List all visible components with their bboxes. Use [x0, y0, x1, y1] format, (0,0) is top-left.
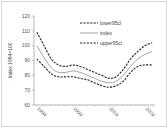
x-tick-label: 2004 [108, 105, 120, 117]
y-tick-label: 90 [24, 57, 30, 63]
y-tick-label: 100 [22, 42, 31, 48]
y-tick-label: 110 [22, 28, 30, 34]
legend-label-upper95cl: upper95cl [100, 40, 122, 46]
y-tick-label: 120 [22, 13, 31, 19]
y-tick-label: 70 [24, 87, 30, 93]
y-axis-label: Index 1994=100 [7, 42, 13, 78]
series-upper95cl [37, 59, 152, 87]
series-index [37, 46, 152, 83]
x-tick-label: 1994 [36, 105, 48, 117]
x-tick-label: 2009 [144, 105, 156, 117]
line-chart: 607080901001101201994199920042009Index 1… [0, 0, 168, 128]
y-tick-label: 80 [24, 72, 30, 78]
y-tick-label: 60 [24, 102, 30, 108]
x-tick-label: 1999 [72, 105, 84, 117]
series-lower95cl [37, 32, 152, 78]
legend-label-index: index [100, 30, 112, 36]
legend-label-lower95cl: lower95cl [100, 20, 121, 26]
